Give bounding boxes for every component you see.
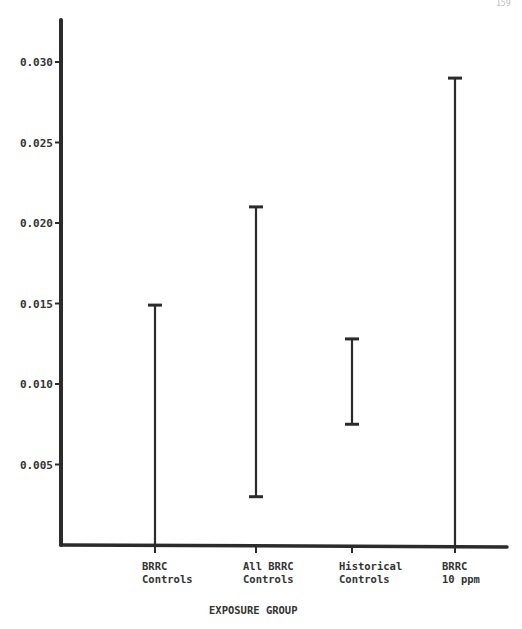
y-tick-label: 0.005	[20, 459, 53, 472]
page-number: 159	[496, 0, 511, 8]
y-tick-label: 0.010	[20, 378, 53, 391]
error-bar	[448, 78, 462, 545]
y-tick-label: 0.025	[20, 137, 53, 150]
error-bar	[148, 305, 162, 545]
error-bar	[249, 207, 263, 497]
error-bars	[148, 78, 462, 545]
axes	[61, 20, 507, 547]
error-bar	[345, 339, 359, 424]
x-category-label: Controls	[142, 573, 193, 585]
x-category-label: Controls	[243, 573, 294, 585]
y-tick-label: 0.020	[20, 217, 53, 230]
exposure-group-chart: 159 0.0050.0100.0150.0200.0250.030 BRRCC…	[0, 0, 522, 629]
x-category-label: BRRC	[442, 560, 467, 572]
x-category-label: Historical	[339, 560, 402, 572]
y-axis-ticks: 0.0050.0100.0150.0200.0250.030	[20, 56, 61, 472]
x-category-label: All BRRC	[243, 560, 294, 572]
x-axis-categories: BRRCControlsAll BRRCControlsHistoricalCo…	[142, 545, 480, 585]
x-axis-line	[61, 545, 507, 547]
x-axis-title: EXPOSURE GROUP	[209, 604, 298, 616]
x-category-label: 10 ppm	[442, 573, 480, 585]
y-tick-label: 0.015	[20, 298, 53, 311]
x-category-label: BRRC	[142, 560, 167, 572]
x-category-label: Controls	[339, 573, 390, 585]
y-tick-label: 0.030	[20, 56, 53, 69]
